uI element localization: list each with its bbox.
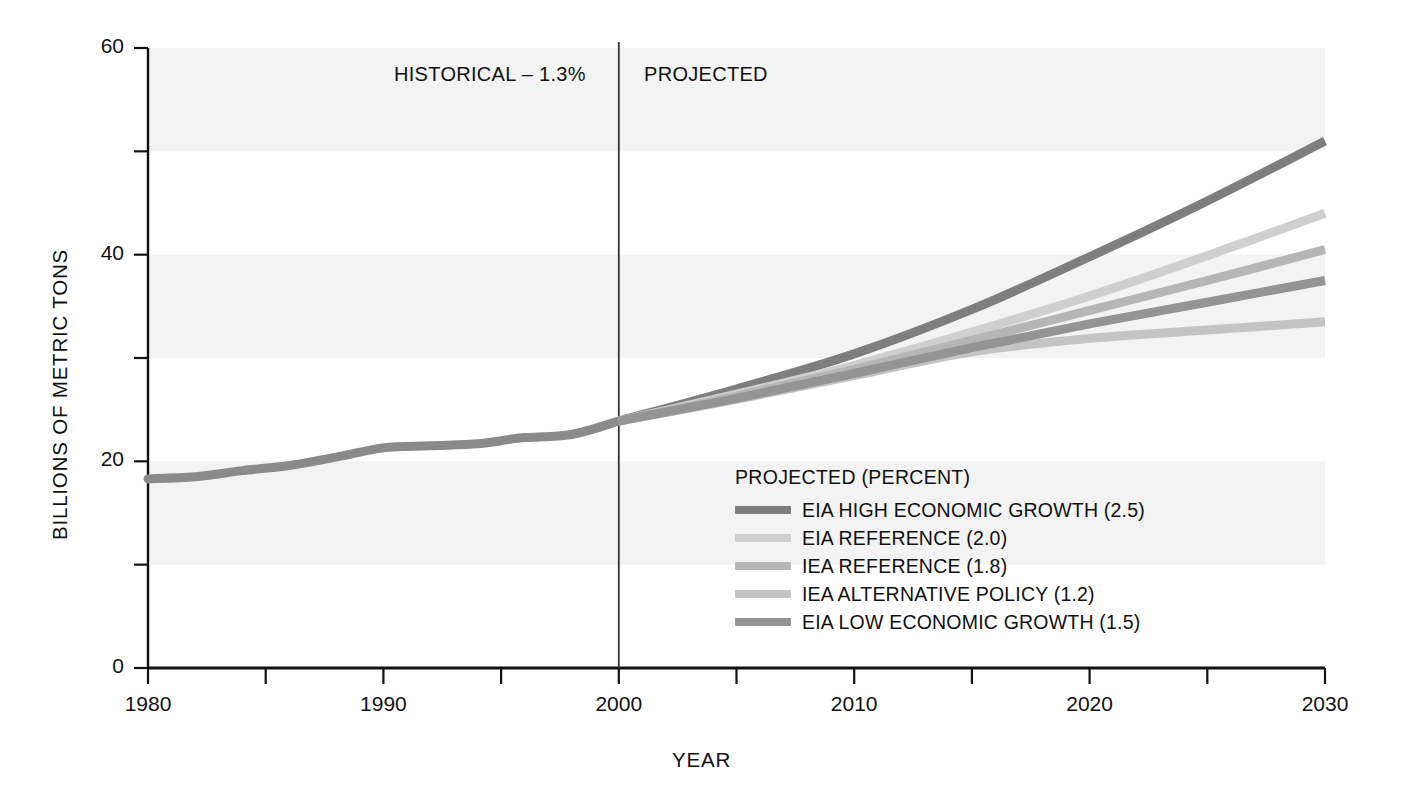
y-axis-title: BILLIONS OF METRIC TONS bbox=[48, 249, 72, 540]
legend-item[interactable]: IEA REFERENCE (1.8) bbox=[735, 552, 1145, 580]
legend-color-swatch bbox=[735, 534, 791, 542]
projected-annotation: PROJECTED bbox=[644, 63, 768, 86]
y-tick-label: 20 bbox=[0, 447, 124, 471]
chart-legend: PROJECTED (PERCENT) EIA HIGH ECONOMIC GR… bbox=[735, 466, 1145, 636]
y-tick-label: 60 bbox=[0, 34, 124, 58]
x-tick-label: 2030 bbox=[1293, 692, 1357, 716]
chart-container: BILLIONS OF METRIC TONS YEAR HISTORICAL … bbox=[0, 0, 1407, 809]
legend-entries: EIA HIGH ECONOMIC GROWTH (2.5)EIA REFERE… bbox=[735, 496, 1145, 636]
legend-item[interactable]: EIA LOW ECONOMIC GROWTH (1.5) bbox=[735, 608, 1145, 636]
x-tick-label: 2000 bbox=[587, 692, 651, 716]
y-tick-label: 40 bbox=[0, 241, 124, 265]
legend-item[interactable]: IEA ALTERNATIVE POLICY (1.2) bbox=[735, 580, 1145, 608]
legend-color-swatch bbox=[735, 506, 791, 514]
x-tick-label: 2020 bbox=[1058, 692, 1122, 716]
x-tick-label: 2010 bbox=[822, 692, 886, 716]
legend-item[interactable]: EIA REFERENCE (2.0) bbox=[735, 524, 1145, 552]
y-tick-label: 0 bbox=[0, 654, 124, 678]
legend-color-swatch bbox=[735, 590, 791, 598]
legend-item-label: IEA ALTERNATIVE POLICY (1.2) bbox=[802, 583, 1095, 606]
historical-annotation: HISTORICAL – 1.3% bbox=[394, 63, 586, 86]
legend-item-label: IEA REFERENCE (1.8) bbox=[802, 555, 1007, 578]
x-tick-label: 1980 bbox=[116, 692, 180, 716]
legend-item-label: EIA LOW ECONOMIC GROWTH (1.5) bbox=[802, 611, 1140, 634]
x-axis-title: YEAR bbox=[672, 748, 731, 772]
legend-color-swatch bbox=[735, 562, 791, 570]
x-tick-label: 1990 bbox=[351, 692, 415, 716]
legend-title: PROJECTED (PERCENT) bbox=[735, 466, 1145, 489]
legend-color-swatch bbox=[735, 618, 791, 626]
line-chart-plot bbox=[0, 0, 1407, 809]
legend-item[interactable]: EIA HIGH ECONOMIC GROWTH (2.5) bbox=[735, 496, 1145, 524]
legend-item-label: EIA HIGH ECONOMIC GROWTH (2.5) bbox=[802, 499, 1145, 522]
legend-item-label: EIA REFERENCE (2.0) bbox=[802, 527, 1007, 550]
